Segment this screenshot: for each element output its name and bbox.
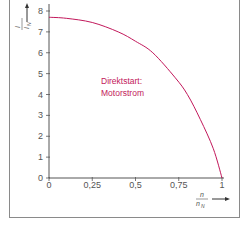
y-label-subscript: N xyxy=(26,22,32,26)
annotation-line-1: Direktstart: xyxy=(101,76,142,86)
y-tick-label: 6 xyxy=(38,48,43,58)
y-label-denominator: I xyxy=(23,27,30,29)
y-axis-label: I I N xyxy=(14,18,32,30)
x-axis-arrow-icon xyxy=(212,197,230,201)
tick-labels: 01234567800,250,50,751 xyxy=(38,6,225,190)
y-tick-label: 3 xyxy=(38,110,43,120)
y-tick-label: 7 xyxy=(38,27,43,37)
y-tick-label: 2 xyxy=(38,131,43,141)
y-tick-label: 5 xyxy=(38,69,43,79)
y-tick-label: 8 xyxy=(38,6,43,16)
annotation-line-2: Motorstrom xyxy=(101,88,144,98)
x-tick-label: 0,75 xyxy=(170,180,188,190)
x-label-denominator: n xyxy=(196,200,200,207)
x-tick-label: 0,25 xyxy=(83,180,101,190)
y-tick-label: 1 xyxy=(38,152,43,162)
y-tick-label: 0 xyxy=(38,173,43,183)
y-label-numerator: I xyxy=(14,26,21,28)
line-chart: 01234567800,250,50,751 Direktstart: Moto… xyxy=(0,0,245,227)
x-tick-label: 0,5 xyxy=(129,180,142,190)
x-label-numerator: n xyxy=(200,191,204,198)
y-axis-arrow-icon xyxy=(25,3,29,22)
x-tick-label: 0 xyxy=(46,180,51,190)
x-label-subscript: N xyxy=(201,203,205,209)
x-axis-label: n n N xyxy=(196,191,208,209)
y-tick-label: 4 xyxy=(38,90,43,100)
x-tick-label: 1 xyxy=(219,180,224,190)
